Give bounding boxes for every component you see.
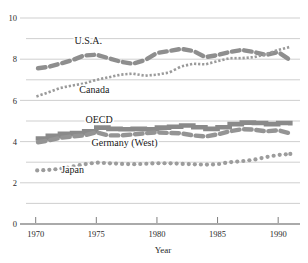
series-canada-tick [287, 47, 289, 48]
series-germany-dash [220, 132, 228, 134]
y-axis-ticks: 0246810 [9, 13, 18, 229]
series-canada-tick [57, 88, 59, 89]
series-usa-dash [123, 62, 131, 63]
series-usa-dash [111, 59, 119, 61]
series-canada-tick [271, 52, 273, 53]
series-label: Japan [61, 164, 84, 175]
series-canada-tick [218, 61, 220, 62]
series-japan-dot [90, 161, 94, 165]
series-usa-dash [171, 49, 179, 50]
series-japan-dot [126, 162, 130, 166]
x-tick-label: 1970 [27, 229, 44, 239]
y-tick-label: 0 [13, 219, 17, 229]
series-usa-dash [87, 55, 95, 56]
series-canada-tick [45, 93, 47, 94]
series-germany-dash [74, 136, 82, 137]
series-japan-dot [168, 161, 172, 165]
series-usa-dash [280, 54, 288, 59]
series-canada-tick [267, 53, 269, 54]
y-tick-label: 8 [13, 54, 17, 64]
series-usa-dash [232, 50, 240, 51]
series-japan-dot [35, 168, 39, 172]
series-canada-tick [170, 71, 172, 72]
series-japan-dot [253, 157, 257, 161]
series-japan-dot [217, 162, 221, 166]
series-canada-tick [40, 94, 42, 95]
series-japan-dot [84, 162, 88, 166]
series-usa [38, 49, 288, 68]
series-canada-tick [89, 81, 91, 82]
series-japan-dot [47, 168, 51, 172]
y-tick-label: 10 [9, 13, 18, 23]
series-germany-dash [268, 130, 276, 131]
series-canada-tick [93, 80, 95, 81]
series-japan-dot [187, 162, 191, 166]
series-japan-dot [150, 161, 154, 165]
series-japan-dot [259, 156, 263, 160]
series-usa-dash [183, 49, 191, 50]
series-canada-tick [283, 48, 285, 49]
series-canada-tick [275, 50, 277, 51]
x-axis-title: Year [155, 245, 172, 255]
series-canada-tick [279, 49, 281, 50]
series-usa-dash [74, 56, 82, 59]
y-tick-label: 4 [13, 137, 18, 147]
series-japan-dot [53, 167, 57, 171]
series-japan-dot [181, 162, 185, 166]
series-usa-dash [244, 50, 252, 51]
series-canada-tick [263, 54, 265, 55]
x-tick-label: 1985 [209, 229, 226, 239]
series-germany-dash [62, 137, 70, 138]
series-japan-dot [265, 155, 269, 159]
series-usa-dash [159, 51, 167, 52]
series-canada-tick [255, 56, 257, 57]
series-japan-dot [199, 162, 203, 166]
series-canada-tick [53, 90, 55, 91]
y-tick-label: 6 [13, 96, 17, 106]
series-japan-dot [102, 161, 106, 165]
series-japan-dot [96, 161, 100, 165]
series-label: U.S.A. [74, 35, 102, 46]
series-canada-tick [174, 69, 176, 70]
series-usa-dash [99, 55, 107, 57]
series-usa-dash [38, 67, 46, 68]
series-canada-tick [214, 62, 216, 63]
series-label: OECD [85, 114, 112, 125]
series-canada-tick [259, 55, 261, 56]
series-germany-dash [183, 134, 191, 135]
series-japan-dot [211, 162, 215, 166]
series-japan-dot [284, 152, 288, 156]
series-canada-tick [36, 96, 38, 97]
series-canada-tick [178, 67, 180, 68]
series-japan-dot [144, 162, 148, 166]
x-tick-label: 1990 [270, 229, 287, 239]
series-germany-dash [38, 141, 46, 142]
series-japan-dot [278, 153, 282, 157]
series-japan-dot [162, 161, 166, 165]
series-japan-dot [114, 162, 118, 166]
series-japan-dot [229, 160, 233, 164]
series-japan-dot [41, 168, 45, 172]
series-germany-dash [256, 130, 264, 131]
series-usa-dash [62, 61, 70, 63]
series-canada-tick [206, 64, 208, 65]
series-canada [36, 47, 289, 96]
series-germany-dash [99, 133, 107, 135]
series-usa-dash [147, 54, 155, 58]
series-japan-dot [235, 159, 239, 163]
series-japan-dot [120, 162, 124, 166]
series-japan-dot [132, 162, 136, 166]
series-germany-dash [123, 135, 131, 136]
series-japan-dot [156, 161, 160, 165]
series-usa-dash [220, 53, 228, 55]
x-axis: 19701975198019851990 [20, 217, 300, 239]
x-tick-label: 1980 [148, 229, 165, 239]
series-canada-tick [85, 83, 87, 84]
series-japan-dot [247, 158, 251, 162]
y-tick-label: 2 [13, 178, 17, 188]
x-tick-label: 1975 [88, 229, 105, 239]
series-usa-dash [135, 61, 143, 63]
series-germany-dash [280, 131, 288, 133]
series-canada-tick [49, 91, 51, 92]
series-germany-dash [208, 135, 216, 136]
